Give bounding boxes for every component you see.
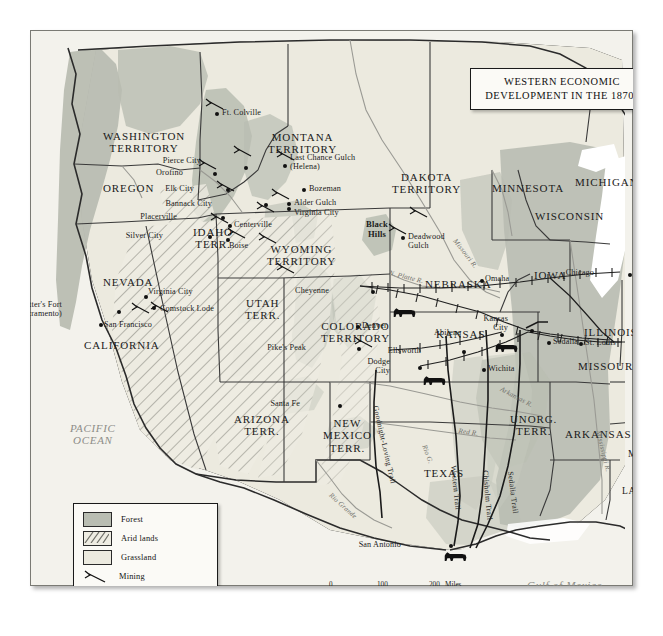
map-title-line1: WESTERN ECONOMIC bbox=[485, 75, 633, 89]
city-dot-elk-city bbox=[226, 188, 230, 192]
city-dot-bozeman bbox=[302, 188, 306, 192]
mining-pick-icon bbox=[276, 149, 296, 161]
scale-bar: 0 100 200 Miles 0 100 200 Kilometers bbox=[327, 582, 477, 586]
map-page: PACIFIC OCEANGulf of Mexico WASHINGTON T… bbox=[0, 0, 663, 636]
city-dot-pierce-city bbox=[244, 166, 248, 170]
cow-icon bbox=[422, 374, 448, 388]
map-legend: Forest Arid lands Grassland bbox=[73, 503, 218, 586]
city-dot-sedalia bbox=[547, 341, 551, 345]
city-dot-deadwood-gulch bbox=[401, 236, 405, 240]
city-dot-centerville bbox=[228, 224, 232, 228]
grassland-swatch-icon bbox=[83, 550, 112, 565]
mining-pick-icon bbox=[131, 302, 151, 314]
mining-pick-icon bbox=[227, 227, 247, 239]
scale-miles-tick-200: 200 bbox=[429, 581, 440, 586]
legend-item-forest: Forest bbox=[83, 510, 217, 529]
legend-label-grassland: Grassland bbox=[121, 553, 156, 562]
arid-swatch-icon bbox=[83, 531, 112, 546]
city-dot-santa-fe bbox=[338, 404, 342, 408]
city-dot-st-louis bbox=[579, 342, 583, 346]
map-title-cartouche: WESTERN ECONOMIC DEVELOPMENT IN THE 1870… bbox=[470, 68, 633, 110]
legend-item-mining: Mining bbox=[83, 567, 217, 586]
city-dot-sutter-s-fort-sacramento bbox=[117, 310, 121, 314]
legend-label-forest: Forest bbox=[121, 515, 143, 524]
city-dot-ellsworth bbox=[462, 350, 466, 354]
mining-pick-icon bbox=[198, 158, 218, 170]
city-dot-abilene bbox=[500, 333, 504, 337]
mining-pick-icon bbox=[210, 212, 230, 224]
city-dot-chicago bbox=[628, 273, 632, 277]
city-dot-omaha bbox=[480, 279, 484, 283]
mining-pick-icon bbox=[388, 223, 408, 235]
city-dot-kansas-city bbox=[530, 329, 534, 333]
mining-pick-icon bbox=[271, 188, 291, 200]
city-dot-alder-gulch bbox=[287, 202, 291, 206]
city-dot-cheyenne bbox=[371, 290, 375, 294]
legend-item-arid: Arid lands bbox=[83, 529, 217, 548]
city-dot-placerville bbox=[221, 216, 225, 220]
mining-pick-icon bbox=[233, 145, 253, 157]
city-dot-silver-city bbox=[208, 235, 212, 239]
mining-pick-icon bbox=[409, 206, 429, 218]
city-dot-boise bbox=[226, 238, 230, 242]
scale-miles-tick-100: 100 bbox=[377, 581, 388, 586]
scale-miles-unit: Miles bbox=[445, 581, 461, 586]
legend-label-mining: Mining bbox=[119, 572, 145, 581]
cow-icon bbox=[494, 341, 520, 355]
legend-item-grassland: Grassland bbox=[83, 548, 217, 567]
mining-pick-icon bbox=[258, 232, 278, 244]
cow-icon bbox=[392, 306, 418, 320]
city-dot-virginia-city bbox=[144, 295, 148, 299]
city-dot-denver bbox=[356, 325, 360, 329]
city-dot-san-francisco bbox=[99, 323, 103, 327]
mining-pick-icon bbox=[83, 570, 110, 583]
city-dot-dodge-city bbox=[418, 366, 422, 370]
scale-miles-tick-0: 0 bbox=[329, 581, 333, 586]
mining-pick-icon bbox=[354, 336, 374, 348]
city-dot-ft-colville bbox=[215, 112, 219, 116]
map-title-line2: DEVELOPMENT IN THE 1870s bbox=[485, 89, 633, 103]
city-dot-san-antonio bbox=[449, 544, 453, 548]
city-dot-pike-s-peak bbox=[357, 347, 361, 351]
city-dot-orofino bbox=[213, 172, 217, 176]
mining-pick-icon bbox=[205, 98, 225, 110]
forest-swatch-icon bbox=[83, 512, 112, 527]
city-dot-comstock-lode bbox=[152, 306, 156, 310]
city-dot-bannack-city bbox=[264, 203, 268, 207]
map-plate: PACIFIC OCEANGulf of Mexico WASHINGTON T… bbox=[30, 30, 633, 586]
legend-label-arid: Arid lands bbox=[121, 534, 158, 543]
cow-icon bbox=[443, 550, 469, 564]
city-dot-last-chance-gulch-helena bbox=[283, 164, 287, 168]
city-dot-wichita bbox=[482, 368, 486, 372]
mining-pick-icon bbox=[276, 262, 296, 274]
city-dot-virginia-city bbox=[287, 207, 291, 211]
